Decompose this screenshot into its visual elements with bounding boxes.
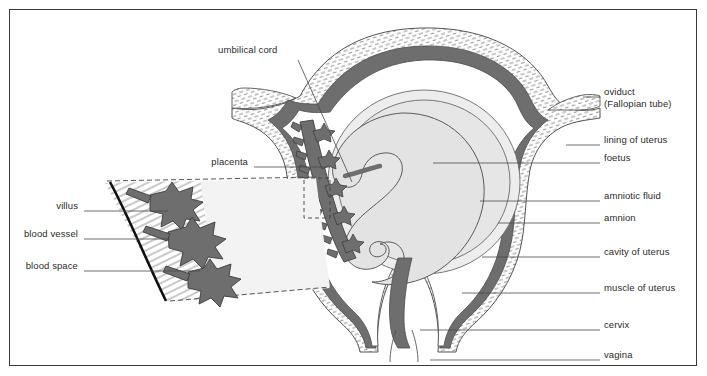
- label-cervix: cervix: [604, 319, 629, 331]
- label-umbilical-cord: umbilical cord: [218, 44, 277, 56]
- label-oviduct-sub: (Fallopian tube): [604, 98, 672, 110]
- figure-canvas: umbilical cord placenta villus blood ves…: [0, 0, 707, 376]
- anatomical-diagram: [0, 0, 707, 376]
- label-foetus: foetus: [604, 152, 630, 164]
- label-blood-space: blood space: [0, 260, 78, 272]
- label-muscle-of-uterus: muscle of uterus: [604, 282, 675, 294]
- label-blood-vessel: blood vessel: [0, 228, 78, 240]
- label-oviduct: oviduct: [604, 86, 635, 98]
- label-cavity-of-uterus: cavity of uterus: [604, 246, 670, 258]
- label-amnion: amnion: [604, 212, 636, 224]
- label-amniotic-fluid: amniotic fluid: [604, 190, 661, 202]
- label-vagina: vagina: [604, 349, 633, 361]
- label-lining-of-uterus: lining of uterus: [604, 134, 667, 146]
- magnified-wedge: [100, 176, 330, 308]
- label-placenta: placenta: [148, 156, 248, 168]
- label-villus: villus: [0, 200, 78, 212]
